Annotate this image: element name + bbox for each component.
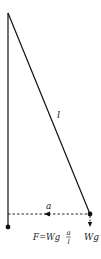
force-formula: F=Wg <box>32 232 61 242</box>
displacement-label: a <box>46 201 51 211</box>
pendulum-diagram: l a Wg F=Wg a l <box>0 0 101 259</box>
force-fraction-denominator: l <box>68 238 70 246</box>
restoring-force-arrow-icon <box>44 212 50 217</box>
displaced-string <box>8 13 90 214</box>
rest-bob <box>6 225 11 230</box>
length-label: l <box>57 109 60 120</box>
force-fraction-numerator: a <box>67 229 71 237</box>
weight-arrow-icon <box>88 222 92 227</box>
weight-label: Wg <box>84 232 99 242</box>
displaced-bob <box>88 212 93 217</box>
